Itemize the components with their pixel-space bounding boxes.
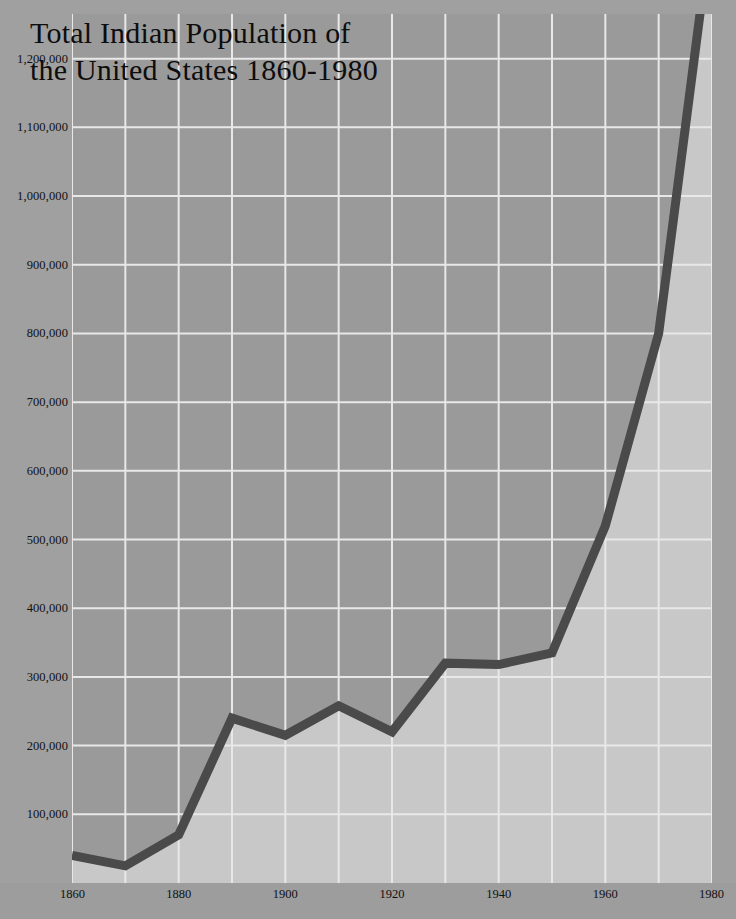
- y-tick-label-text: 300,000: [27, 669, 72, 684]
- y-tick-label: 600,000: [6, 463, 72, 478]
- y-tick-label: 500,000: [6, 532, 72, 547]
- y-tick-label-text: 500,000: [27, 532, 72, 547]
- x-tick-label: 1920: [380, 887, 405, 902]
- chart-figure: 100,000200,000300,000400,000500,000600,0…: [0, 0, 736, 919]
- x-axis-tick-labels: 1860188019001920194019601980: [0, 883, 736, 919]
- y-tick-label: 100,000: [6, 807, 72, 822]
- y-tick-label-text: 700,000: [27, 395, 72, 410]
- x-tick-label: 1980: [699, 887, 724, 902]
- data-line-total-indian-population: [72, 14, 712, 866]
- y-tick-label: 400,000: [6, 601, 72, 616]
- x-tick-label: 1940: [486, 887, 511, 902]
- y-tick-label: 900,000: [6, 257, 72, 272]
- y-tick-label-text: 1,100,000: [17, 120, 72, 135]
- y-axis-tick-labels: 100,000200,000300,000400,000500,000600,0…: [0, 0, 72, 919]
- y-tick-label: 1,000,000: [6, 189, 72, 204]
- x-tick-label: 1900: [273, 887, 298, 902]
- y-tick-label: 800,000: [6, 326, 72, 341]
- plot-area: [72, 14, 712, 883]
- y-tick-label-text: 600,000: [27, 463, 72, 478]
- y-tick-label: 1,100,000: [6, 120, 72, 135]
- y-tick-label-text: 1,000,000: [17, 189, 72, 204]
- chart-title: Total Indian Population of the United St…: [30, 14, 500, 88]
- y-tick-label-text: 100,000: [27, 807, 72, 822]
- y-tick-label-text: 200,000: [27, 738, 72, 753]
- y-tick-label: 200,000: [6, 738, 72, 753]
- data-line-layer: [72, 14, 712, 883]
- y-tick-label-text: 800,000: [27, 326, 72, 341]
- plot-right-margin: [712, 0, 736, 883]
- y-tick-label-text: 900,000: [27, 257, 72, 272]
- y-tick-label: 700,000: [6, 395, 72, 410]
- x-tick-label: 1960: [593, 887, 618, 902]
- y-tick-label-text: 400,000: [27, 601, 72, 616]
- x-tick-label: 1880: [166, 887, 191, 902]
- y-tick-label: 300,000: [6, 669, 72, 684]
- x-tick-label: 1860: [60, 887, 85, 902]
- plot-top-margin: [0, 0, 736, 14]
